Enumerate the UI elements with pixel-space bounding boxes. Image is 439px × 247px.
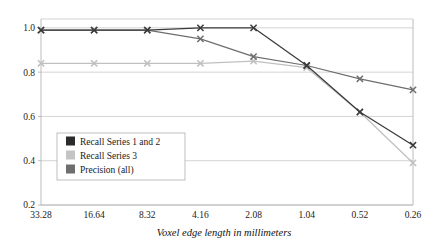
chart-container: 0.20.40.60.81.0 33.2816.648.324.162.081.… [0, 0, 439, 247]
legend-label: Recall Series 3 [80, 151, 137, 161]
y-tick-label: 0.2 [23, 200, 35, 210]
y-tick-label: 0.4 [23, 156, 35, 166]
y-tick-label: 0.6 [23, 112, 35, 122]
x-tick-label: 0.52 [352, 210, 369, 220]
x-tick-label: 33.28 [30, 210, 52, 220]
legend-label: Recall Series 1 and 2 [80, 137, 160, 147]
chart-legend: Recall Series 1 and 2Recall Series 3Prec… [57, 133, 185, 180]
x-tick-label: 2.08 [245, 210, 262, 220]
y-tick-label: 0.8 [23, 68, 35, 78]
x-tick-label: 4.16 [192, 210, 209, 220]
y-axis-tick-labels: 0.20.40.60.81.0 [23, 23, 41, 210]
legend-swatch [66, 165, 75, 174]
x-tick-label: 1.04 [298, 210, 315, 220]
y-tick-label: 1.0 [23, 23, 35, 33]
series-precision-all [38, 27, 416, 93]
x-axis-title: Voxel edge length in millimeters [157, 227, 292, 238]
line-chart: 0.20.40.60.81.0 33.2816.648.324.162.081.… [0, 0, 439, 247]
data-point-marker [357, 109, 363, 115]
series-recall-series-1-and-2 [38, 25, 416, 149]
series-line [41, 28, 413, 145]
x-tick-label: 16.64 [83, 210, 105, 220]
legend-swatch [66, 151, 75, 160]
x-tick-label: 8.32 [139, 210, 156, 220]
x-axis-tick-labels: 33.2816.648.324.162.081.040.520.26 [30, 210, 421, 220]
x-tick-label: 0.26 [405, 210, 422, 220]
legend-swatch [66, 137, 75, 146]
legend-label: Precision (all) [80, 165, 134, 176]
